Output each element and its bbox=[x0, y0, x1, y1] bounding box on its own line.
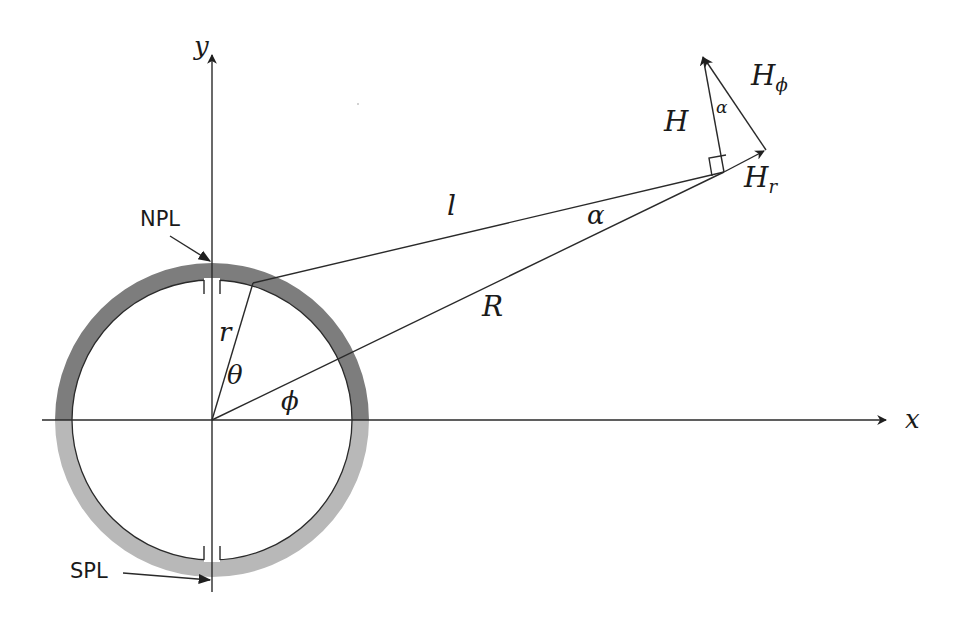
distance-l-line bbox=[253, 172, 724, 283]
label-H-phi-sub: ϕ bbox=[775, 74, 787, 95]
spl-label: SPL bbox=[70, 559, 108, 583]
magnetic-field-diagram: x y NPL SPL r θ ϕ l R α α H Hϕ Hr bbox=[0, 0, 964, 617]
label-r: r bbox=[219, 317, 233, 347]
x-axis-label: x bbox=[905, 404, 920, 434]
label-H-phi: Hϕ bbox=[750, 59, 788, 95]
label-alpha-small: α bbox=[716, 97, 728, 117]
label-alpha-main: α bbox=[587, 200, 605, 230]
label-H: H bbox=[663, 105, 689, 138]
label-H-r-sub: r bbox=[768, 176, 778, 197]
label-theta: θ bbox=[227, 360, 243, 390]
label-phi: ϕ bbox=[281, 386, 299, 416]
y-axis-label: y bbox=[193, 31, 209, 61]
label-H-r: Hr bbox=[743, 161, 778, 197]
speck bbox=[357, 103, 359, 105]
npl-label: NPL bbox=[140, 207, 180, 231]
label-H-r-base: H bbox=[743, 161, 769, 194]
label-R: R bbox=[481, 290, 503, 323]
label-l: l bbox=[447, 189, 456, 222]
npl-arrow bbox=[170, 236, 210, 261]
radius-r-line bbox=[212, 283, 253, 420]
label-H-phi-base: H bbox=[750, 59, 776, 92]
